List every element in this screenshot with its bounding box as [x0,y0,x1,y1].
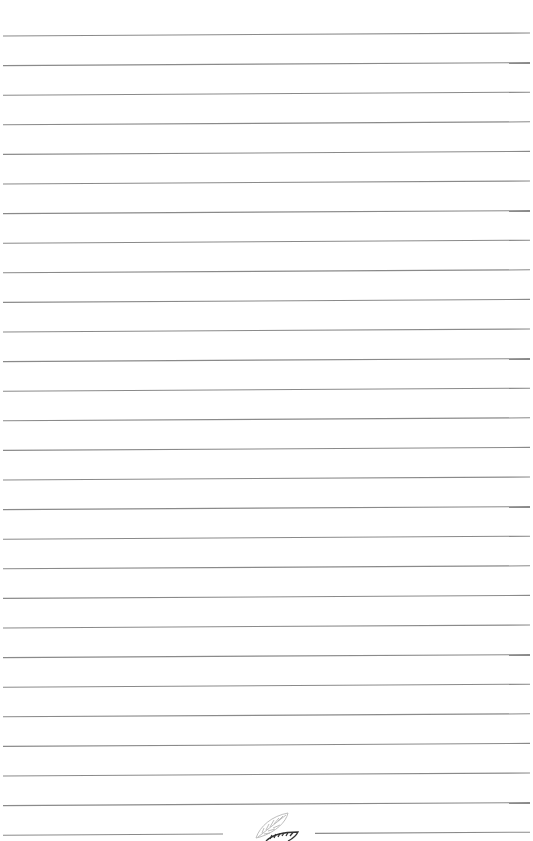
ruled-line [3,447,530,450]
ruled-line [3,270,530,273]
ruled-line [3,655,530,658]
ruled-line [3,329,530,332]
ruled-line [3,92,530,95]
ruled-line [3,477,530,480]
ruled-line [3,714,530,717]
ruled-line [3,181,530,184]
ruled-line [3,625,530,628]
ruled-line [3,773,530,776]
ruled-line [3,122,530,125]
ruled-line [3,566,530,569]
ruled-line [3,359,530,362]
ruled-line [3,63,530,66]
ruled-line [3,240,530,243]
ruled-line [3,536,530,539]
ruled-line [3,299,530,302]
ruled-line [3,595,530,598]
ruled-line [3,507,530,510]
ruled-line [3,834,223,835]
ruled-line [3,388,530,391]
ruled-line [3,211,530,214]
ruled-line [3,743,530,746]
ruled-line [3,803,530,806]
notebook-page [0,0,533,841]
ruled-line [3,684,530,687]
ruled-line [3,418,530,421]
ruled-line [315,832,530,833]
ruled-line [3,151,530,154]
feather-leaf-icon [248,808,304,841]
ruled-line [3,33,530,36]
ruled-lines [0,0,533,841]
